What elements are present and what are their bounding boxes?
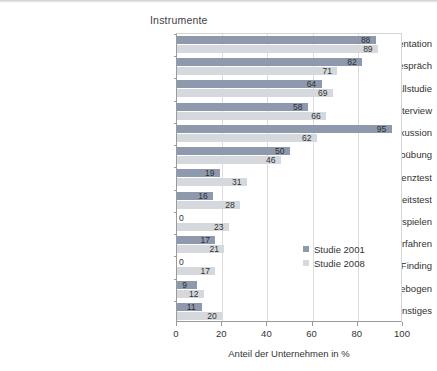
legend-label: Studie 2001 (314, 244, 365, 255)
chart-title: Instrumente (150, 14, 330, 26)
bar-row: 8889 (177, 34, 401, 56)
bar-value-label: 11 (187, 303, 196, 311)
bar-row: 5046 (177, 145, 401, 167)
bar-row: 017 (177, 256, 401, 278)
x-axis: 020406080100 (176, 322, 402, 346)
bar-value-label: 20 (207, 312, 216, 320)
x-tick-mark (176, 322, 177, 326)
category-tick (174, 123, 177, 124)
legend-item-studie-2001[interactable]: Studie 2001 (303, 242, 365, 256)
bar-studie-2001 (177, 103, 308, 111)
bar-value-label: 71 (322, 67, 331, 75)
bar-row: 1931 (177, 167, 401, 189)
category-tick (174, 56, 177, 57)
bar-chart: Instrumente PräsentationZweiergesprächFa… (0, 0, 437, 371)
plot-area: 8889827164695866956250461931162802317210… (176, 33, 402, 322)
x-tick-label: 80 (352, 328, 363, 339)
bar-studie-2008 (177, 134, 317, 142)
bar-row: 8271 (177, 56, 401, 78)
bar-row: 5866 (177, 101, 401, 123)
category-tick (174, 78, 177, 79)
x-axis-title: Anteil der Unternehmen in % (176, 348, 402, 359)
bar-value-label: 0 (179, 258, 184, 266)
category-tick (174, 101, 177, 102)
legend-swatch-icon (303, 246, 309, 252)
bar-value-label: 12 (189, 290, 198, 298)
legend-label: Studie 2008 (314, 258, 365, 269)
x-tick-mark (266, 322, 267, 326)
category-tick (174, 256, 177, 257)
legend-item-studie-2008[interactable]: Studie 2008 (303, 256, 365, 270)
bar-value-label: 62 (302, 134, 311, 142)
bar-value-label: 16 (198, 192, 207, 200)
bar-value-label: 31 (232, 178, 241, 186)
bar-studie-2001 (177, 147, 290, 155)
x-tick-label: 0 (173, 328, 178, 339)
category-tick (174, 167, 177, 168)
chart-legend: Studie 2001Studie 2008 (303, 242, 365, 270)
bar-studie-2001 (177, 281, 197, 289)
bar-row: 1721 (177, 234, 401, 256)
bar-row: 6469 (177, 78, 401, 100)
bar-value-label: 64 (307, 80, 316, 88)
bar-row: 1628 (177, 190, 401, 212)
bar-value-label: 19 (205, 169, 214, 177)
bar-studie-2008 (177, 67, 337, 75)
x-tick-label: 20 (216, 328, 227, 339)
x-tick-mark (221, 322, 222, 326)
x-tick-mark (312, 322, 313, 326)
bar-value-label: 21 (209, 245, 218, 253)
x-tick-mark (357, 322, 358, 326)
x-tick-mark (402, 322, 403, 326)
legend-swatch-icon (303, 260, 309, 266)
bar-studie-2008 (177, 112, 326, 120)
bar-row: 912 (177, 279, 401, 301)
bar-value-label: 89 (363, 45, 372, 53)
bar-value-label: 17 (200, 267, 209, 275)
bar-row: 9562 (177, 123, 401, 145)
bar-studie-2001 (177, 58, 362, 66)
bar-studie-2001 (177, 125, 392, 133)
bar-value-label: 17 (200, 236, 209, 244)
x-tick-label: 100 (394, 328, 410, 339)
category-tick (174, 234, 177, 235)
bar-row: 023 (177, 212, 401, 234)
bar-value-label: 0 (179, 214, 184, 222)
bar-value-label: 50 (275, 147, 284, 155)
x-tick-label: 40 (261, 328, 272, 339)
bar-value-label: 23 (214, 223, 223, 231)
bar-studie-2001 (177, 80, 322, 88)
bar-value-label: 9 (182, 281, 187, 289)
bar-value-label: 28 (225, 201, 234, 209)
bar-value-label: 58 (293, 103, 302, 111)
category-tick (174, 301, 177, 302)
category-tick (174, 212, 177, 213)
x-tick-label: 60 (306, 328, 317, 339)
category-tick (174, 145, 177, 146)
bar-studie-2008 (177, 45, 378, 53)
bar-value-label: 66 (311, 112, 320, 120)
bar-value-label: 95 (377, 125, 386, 133)
bar-value-label: 82 (347, 58, 356, 66)
bar-studie-2008 (177, 89, 333, 97)
bar-value-label: 88 (361, 36, 370, 44)
bar-row: 1120 (177, 301, 401, 323)
category-tick (174, 279, 177, 280)
category-tick (174, 34, 177, 35)
bar-value-label: 69 (318, 89, 327, 97)
category-tick (174, 190, 177, 191)
bar-studie-2001 (177, 36, 376, 44)
bar-value-label: 46 (266, 156, 275, 164)
